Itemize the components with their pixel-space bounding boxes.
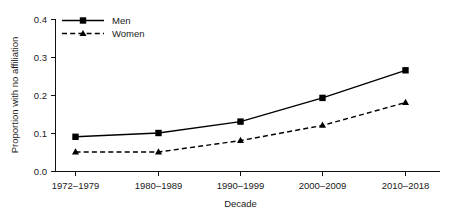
x-axis-title: Decade (224, 198, 257, 209)
y-tick-label: 0.2 (34, 90, 47, 101)
x-tick-label: 2000–2009 (299, 180, 347, 191)
y-tick-label: 0.0 (34, 166, 47, 177)
legend-label-women: Women (112, 28, 145, 39)
y-tick-label: 0.4 (34, 14, 47, 25)
legend-label-men: Men (112, 15, 130, 26)
square-marker-icon (80, 17, 86, 23)
men-marker (155, 130, 161, 136)
men-marker (237, 118, 243, 124)
y-axis-title: Proportion with no affiliation (9, 37, 20, 154)
men-marker (72, 134, 78, 140)
men-marker (319, 95, 325, 101)
y-tick-label: 0.1 (34, 128, 47, 139)
x-tick-label: 2010–2018 (382, 180, 430, 191)
line-chart: 0.4 0.3 0.2 0.1 0.0 1972–1979 1980–1989 … (0, 0, 462, 218)
y-tick-label: 0.3 (34, 52, 47, 63)
x-tick-label: 1980–1989 (135, 180, 183, 191)
x-tick-label: 1972–1979 (52, 180, 100, 191)
x-tick-label: 1990–1999 (217, 180, 265, 191)
men-marker (402, 67, 408, 73)
chart-container: 0.4 0.3 0.2 0.1 0.0 1972–1979 1980–1989 … (0, 0, 462, 218)
